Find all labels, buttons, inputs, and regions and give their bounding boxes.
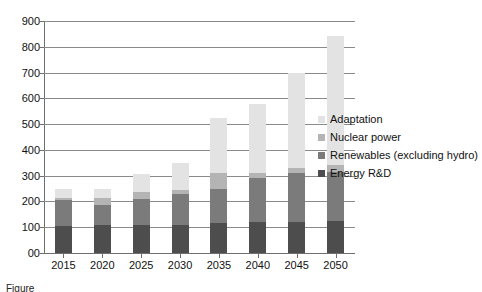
x-tick-label: 2035 bbox=[197, 259, 241, 271]
bar-segment bbox=[288, 168, 305, 173]
bar-segment bbox=[172, 225, 189, 253]
legend-label: Renewables (excluding hydro) bbox=[330, 149, 478, 161]
bar-stack bbox=[94, 189, 111, 253]
bar-segment bbox=[94, 198, 111, 206]
bar-segment bbox=[288, 73, 305, 168]
y-tick-mark bbox=[40, 73, 44, 74]
gridline bbox=[44, 150, 355, 151]
bar-segment bbox=[133, 192, 150, 198]
y-tick-mark bbox=[40, 47, 44, 48]
bar-segment bbox=[172, 194, 189, 225]
x-tick-label: 2045 bbox=[275, 259, 319, 271]
y-axis-labels: 00100200300400500600700800900 bbox=[0, 0, 40, 292]
y-tick-label: 100 bbox=[4, 222, 40, 233]
gridline bbox=[44, 98, 355, 99]
y-tick-label: 00 bbox=[4, 248, 40, 259]
bar-stack bbox=[172, 163, 189, 253]
legend-swatch-icon bbox=[318, 134, 325, 141]
y-tick-mark bbox=[40, 176, 44, 177]
y-tick-label: 700 bbox=[4, 68, 40, 79]
bar-segment bbox=[172, 163, 189, 190]
bar-segment bbox=[327, 221, 344, 253]
bar-stack bbox=[249, 104, 266, 254]
bar-segment bbox=[133, 199, 150, 225]
y-tick-label: 800 bbox=[4, 42, 40, 53]
legend-swatch-icon bbox=[318, 152, 325, 159]
y-tick-mark bbox=[40, 98, 44, 99]
bar-segment bbox=[94, 189, 111, 198]
x-tick-mark bbox=[219, 254, 220, 258]
chart-legend: AdaptationNuclear powerRenewables (exclu… bbox=[318, 110, 482, 182]
bar-segment bbox=[210, 173, 227, 188]
x-tick-label: 2020 bbox=[80, 259, 124, 271]
gridline bbox=[44, 73, 355, 74]
legend-item: Nuclear power bbox=[318, 128, 482, 146]
x-tick-mark bbox=[102, 254, 103, 258]
y-tick-label: 600 bbox=[4, 93, 40, 104]
gridline bbox=[44, 124, 355, 125]
y-tick-label: 400 bbox=[4, 145, 40, 156]
bar-stack bbox=[288, 73, 305, 253]
bar-segment bbox=[172, 190, 189, 194]
legend-swatch-icon bbox=[318, 116, 325, 123]
y-tick-mark bbox=[40, 124, 44, 125]
bar-segment bbox=[55, 198, 72, 201]
x-tick-label: 2025 bbox=[119, 259, 163, 271]
legend-item: Energy R&D bbox=[318, 164, 482, 182]
legend-label: Energy R&D bbox=[330, 167, 391, 179]
y-tick-label: 500 bbox=[4, 119, 40, 130]
x-tick-mark bbox=[297, 254, 298, 258]
x-tick-mark bbox=[63, 254, 64, 258]
gridline bbox=[44, 227, 355, 228]
bar-segment bbox=[55, 189, 72, 198]
bar-segment bbox=[249, 178, 266, 222]
bar-stack bbox=[133, 174, 150, 253]
gridline bbox=[44, 253, 355, 254]
x-tick-label: 2050 bbox=[314, 259, 358, 271]
x-tick-mark bbox=[336, 254, 337, 258]
gridline bbox=[44, 201, 355, 202]
figure-caption: Figure bbox=[6, 283, 476, 292]
bar-segment bbox=[133, 225, 150, 253]
bar-segment bbox=[94, 205, 111, 224]
y-tick-mark bbox=[40, 201, 44, 202]
gridline bbox=[44, 21, 355, 22]
legend-label: Adaptation bbox=[330, 113, 383, 125]
y-tick-label: 300 bbox=[4, 171, 40, 182]
bar-segment bbox=[288, 222, 305, 253]
chart-figure: 00100200300400500600700800900 2015202020… bbox=[0, 0, 482, 292]
y-tick-mark bbox=[40, 21, 44, 22]
bar-segment bbox=[249, 222, 266, 253]
plot-area bbox=[44, 21, 355, 253]
x-tick-mark bbox=[141, 254, 142, 258]
bar-segment bbox=[133, 174, 150, 192]
legend-item: Adaptation bbox=[318, 110, 482, 128]
legend-swatch-icon bbox=[318, 170, 325, 177]
bar-segment bbox=[249, 173, 266, 178]
x-tick-label: 2040 bbox=[236, 259, 280, 271]
bar-segment bbox=[55, 200, 72, 226]
gridline bbox=[44, 47, 355, 48]
y-tick-label: 200 bbox=[4, 196, 40, 207]
y-tick-label: 900 bbox=[4, 16, 40, 27]
y-tick-mark bbox=[40, 150, 44, 151]
bar-segment bbox=[94, 225, 111, 253]
x-tick-mark bbox=[180, 254, 181, 258]
legend-item: Renewables (excluding hydro) bbox=[318, 146, 482, 164]
x-tick-label: 2015 bbox=[41, 259, 85, 271]
bar-segment bbox=[210, 189, 227, 224]
legend-label: Nuclear power bbox=[330, 131, 401, 143]
y-tick-mark bbox=[40, 253, 44, 254]
bar-segment bbox=[55, 226, 72, 253]
x-tick-mark bbox=[258, 254, 259, 258]
gridline bbox=[44, 176, 355, 177]
bar-segment bbox=[210, 223, 227, 253]
x-tick-label: 2030 bbox=[158, 259, 202, 271]
bar-segment bbox=[288, 173, 305, 222]
bar-segment bbox=[210, 118, 227, 173]
y-tick-mark bbox=[40, 227, 44, 228]
bar-segment bbox=[249, 104, 266, 174]
bar-stack bbox=[55, 189, 72, 253]
bar-stack bbox=[210, 118, 227, 253]
